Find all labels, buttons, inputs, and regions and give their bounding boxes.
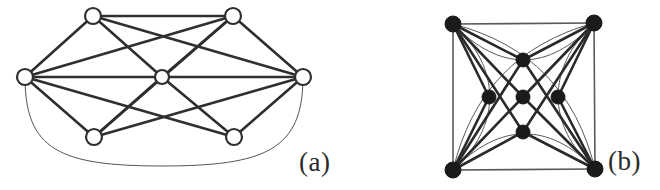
panel-b-caption: (b) (608, 148, 641, 175)
edge-square-top (453, 23, 594, 24)
vertex-inner-top (516, 53, 530, 67)
vertex-inner-right (551, 90, 565, 104)
vertex-inner-center (516, 90, 530, 104)
vertex-top-left (85, 8, 101, 24)
vertex-inner-bottom (516, 125, 530, 139)
edge-square-right (594, 23, 595, 169)
vertex-corner-top-left (445, 16, 461, 32)
vertex-bottom-right (226, 129, 242, 145)
vertex-corner-bottom-right (587, 161, 603, 177)
vertex-left (17, 69, 33, 85)
vertex-bottom-left (86, 129, 102, 145)
vertex-right (295, 69, 311, 85)
vertex-corner-top-right (586, 15, 602, 31)
vertex-inner-left (482, 90, 496, 104)
panel-a-caption: (a) (299, 149, 330, 176)
edge-square-bottom (453, 169, 595, 170)
vertex-center (155, 70, 169, 84)
vertex-top-right (225, 8, 241, 24)
vertex-corner-bottom-left (445, 162, 461, 178)
